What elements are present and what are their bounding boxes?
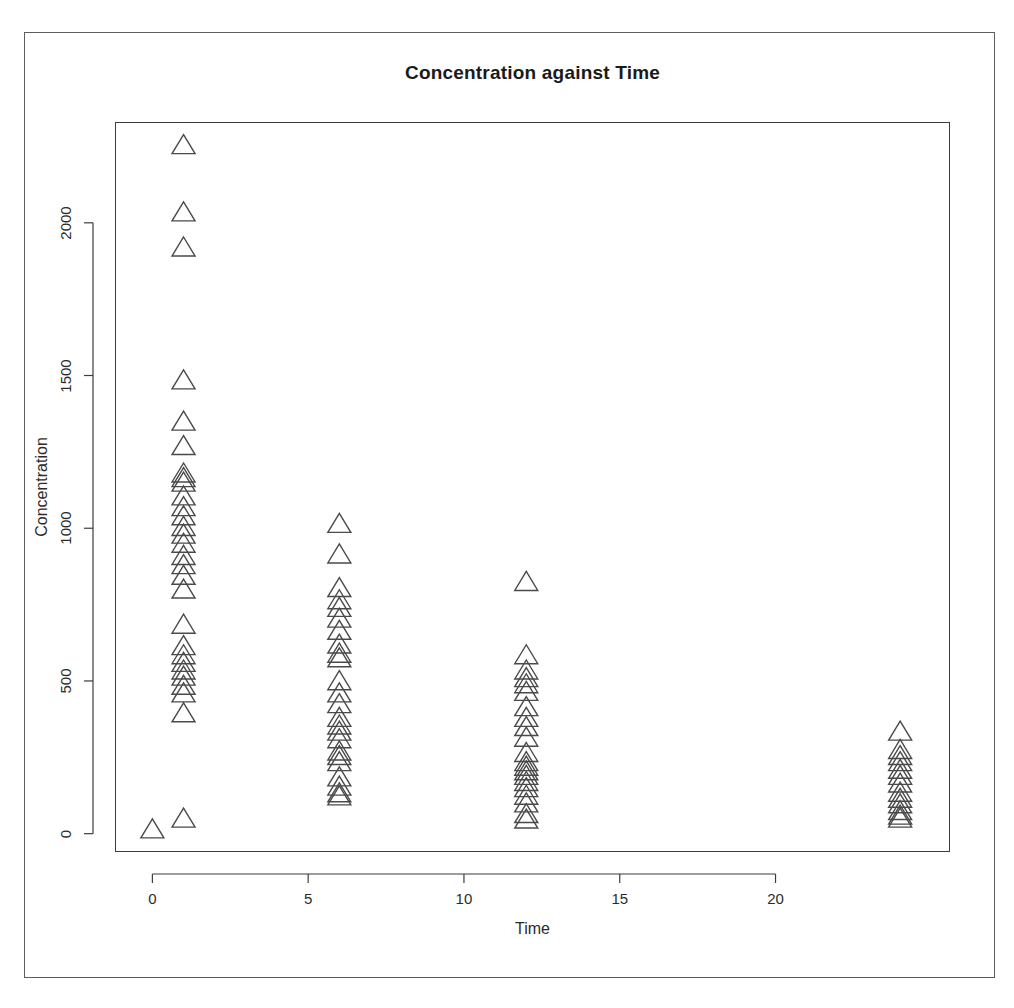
y-tick-label: 1500 — [57, 359, 74, 392]
data-point-marker — [889, 752, 912, 771]
x-tick-label: 10 — [456, 890, 473, 907]
data-point-marker — [889, 759, 912, 778]
data-point-marker — [172, 237, 195, 256]
data-point-marker — [515, 571, 538, 590]
data-point-marker — [172, 411, 195, 430]
data-point-marker — [328, 671, 351, 690]
screenshot-page: Concentration against Time 0510152005001… — [0, 0, 1014, 1008]
x-tick-label: 5 — [304, 890, 312, 907]
y-tick-label: 2000 — [57, 206, 74, 239]
data-point-marker — [328, 513, 351, 532]
x-tick-label: 0 — [148, 890, 156, 907]
data-point-marker — [515, 785, 538, 804]
data-point-marker — [172, 370, 195, 389]
data-point-marker — [328, 590, 351, 609]
y-tick-label: 0 — [57, 830, 74, 838]
data-point-marker — [328, 620, 351, 639]
data-point-marker — [515, 674, 538, 693]
data-point-marker — [172, 579, 195, 598]
y-axis-label: Concentration — [33, 437, 51, 537]
data-point-marker — [889, 746, 912, 765]
y-tick-label: 500 — [57, 668, 74, 693]
data-point-marker — [328, 715, 351, 734]
y-tick-label: 1000 — [57, 512, 74, 545]
data-point-group — [141, 135, 912, 838]
data-point-marker — [172, 808, 195, 827]
data-point-marker — [172, 614, 195, 633]
data-point-marker — [328, 721, 351, 740]
page-title: Concentration against Time — [115, 62, 950, 84]
data-point-marker — [889, 739, 912, 758]
data-point-marker — [328, 578, 351, 597]
data-point-marker — [172, 202, 195, 221]
data-point-marker — [328, 544, 351, 563]
x-tick-label: 20 — [767, 890, 784, 907]
data-point-marker — [172, 703, 195, 722]
data-point-marker — [889, 721, 912, 740]
plot-data-layer — [115, 122, 950, 852]
data-point-marker — [172, 135, 195, 154]
data-point-marker — [172, 436, 195, 455]
data-point-marker — [141, 819, 164, 838]
data-point-marker — [515, 660, 538, 679]
data-point-marker — [328, 707, 351, 726]
data-point-marker — [515, 668, 538, 687]
x-tick-label: 15 — [611, 890, 628, 907]
scatter-plot-figure: Concentration against Time 0510152005001… — [0, 0, 1014, 1008]
data-point-marker — [889, 801, 912, 820]
x-axis-label: Time — [115, 920, 950, 938]
